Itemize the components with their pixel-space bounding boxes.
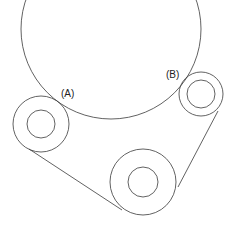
- belt-drive-diagram: (A) (B): [0, 0, 235, 225]
- pulley-b: [179, 72, 223, 116]
- diagram-canvas: (A) (B): [0, 0, 235, 225]
- pulley-c-inner: [128, 167, 158, 197]
- pulley-b-inner: [187, 80, 215, 108]
- label-b: (B): [166, 69, 179, 80]
- pulley-a-outer: [13, 96, 69, 152]
- belt-segment-right: [178, 111, 218, 187]
- pulley-c-outer: [110, 149, 176, 215]
- pulley-c: [110, 149, 176, 215]
- pulley-a: [13, 96, 69, 152]
- belt-segment-left: [29, 149, 122, 210]
- pulley-b-outer: [179, 72, 223, 116]
- pulley-a-inner: [27, 110, 55, 138]
- label-a: (A): [61, 88, 74, 99]
- large-drum-circle: [21, 0, 201, 119]
